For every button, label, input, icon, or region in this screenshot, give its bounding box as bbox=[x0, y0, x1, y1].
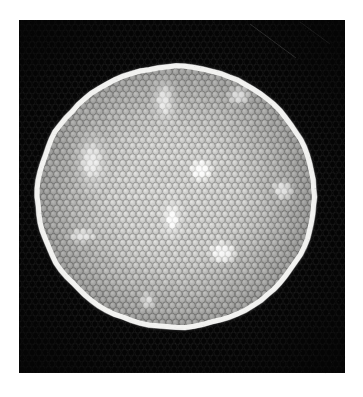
fiber-bundle-micrograph bbox=[0, 0, 363, 397]
specimen-image-viewport: Fiber optic bundle cross-section transmi… bbox=[0, 0, 363, 397]
